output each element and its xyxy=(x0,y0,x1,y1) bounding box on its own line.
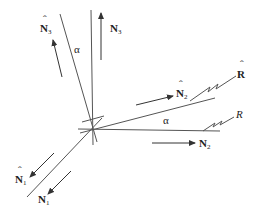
n1-label: N1 xyxy=(38,193,50,207)
n3-hat-arrow xyxy=(53,40,62,77)
n2-hat-arrow xyxy=(136,96,173,105)
n3-hat-label: N3 xyxy=(40,22,52,36)
axis-n1 xyxy=(27,118,102,197)
n2-hat-label: N2 xyxy=(176,87,188,101)
r-label: R xyxy=(235,108,243,120)
n1-hat-label: N1 xyxy=(15,173,27,187)
axes xyxy=(27,10,220,197)
axis-n2-hat xyxy=(80,98,215,133)
r-vectors xyxy=(190,76,236,131)
n2-label: N2 xyxy=(199,137,211,151)
n1-arrow xyxy=(48,171,71,194)
rotation-diagram: α α N3 ˆ N3 ˆ N2 N2 ˆ R R ˆ N1 N1 xyxy=(0,0,258,218)
r-line xyxy=(203,117,234,131)
alpha-right-label: α xyxy=(163,114,169,126)
r-hat-label: R xyxy=(237,68,246,80)
axis-n2 xyxy=(78,129,220,131)
n3-label: N3 xyxy=(110,22,122,36)
alpha-top-label: α xyxy=(74,43,80,55)
labels: α α N3 ˆ N3 ˆ N2 N2 ˆ R R ˆ N1 N1 xyxy=(15,13,246,207)
arrows xyxy=(30,13,195,194)
r-hat-line xyxy=(190,76,236,101)
n1-hat-arrow xyxy=(30,153,54,177)
